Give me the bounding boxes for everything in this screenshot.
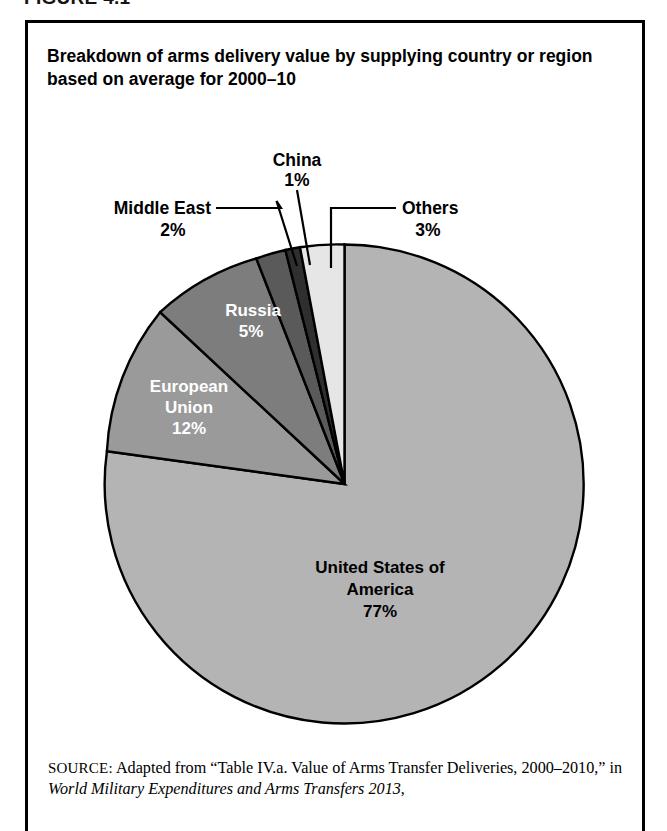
callout-value-china: 1% xyxy=(284,170,310,190)
slice-value-russia: 5% xyxy=(239,322,264,341)
source-label: SOURCE: xyxy=(48,760,113,776)
callout-label-middle-east: Middle East xyxy=(114,198,211,218)
slice-value-united-states: 77% xyxy=(363,602,397,621)
source-publication-title: World Military Expenditures and Arms Tra… xyxy=(48,780,401,798)
slice-value-european-union: 12% xyxy=(172,419,206,438)
slice-label-russia: Russia xyxy=(225,301,281,320)
callout-value-middle-east: 2% xyxy=(160,220,186,240)
pie-chart-svg: China 1% Middle East 2% Others 3% Russia… xyxy=(0,0,667,760)
callout-label-china: China xyxy=(273,150,322,170)
source-note: SOURCE: Adapted from “Table IV.a. Value … xyxy=(48,758,628,800)
slice-label-european-union-line1: European xyxy=(150,377,228,396)
slice-label-united-states-line1: United States of xyxy=(315,558,445,577)
slice-label-european-union-line2: Union xyxy=(165,398,213,417)
slice-label-united-states-line2: America xyxy=(346,580,414,599)
callout-value-others: 3% xyxy=(415,220,441,240)
source-text-after: , xyxy=(401,780,405,798)
source-text-before: Adapted from “Table IV.a. Value of Arms … xyxy=(113,759,622,777)
pie-chart: China 1% Middle East 2% Others 3% Russia… xyxy=(0,0,667,760)
callout-label-others: Others xyxy=(402,198,459,218)
